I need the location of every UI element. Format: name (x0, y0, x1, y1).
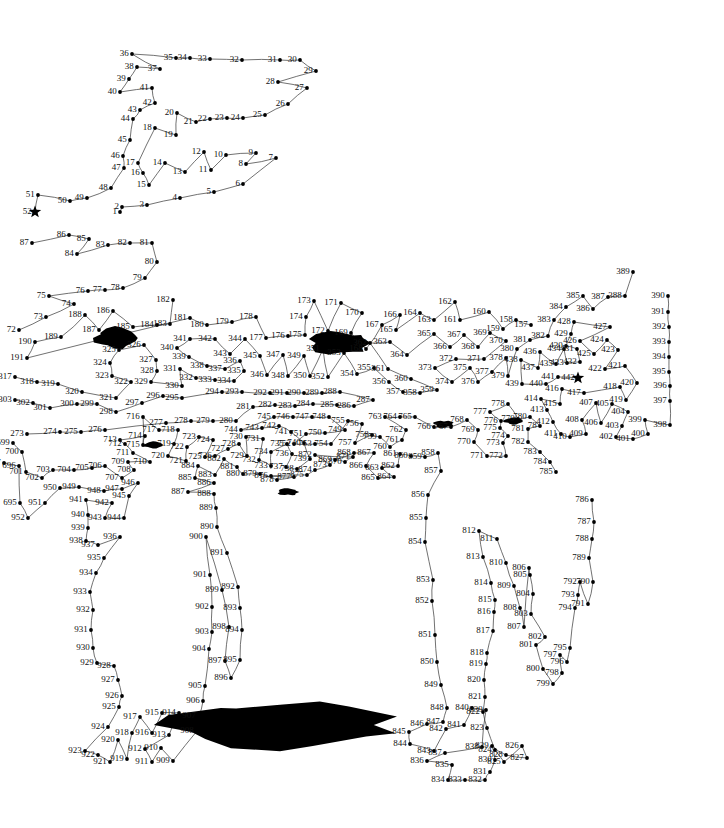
dot-174[interactable] (304, 315, 308, 319)
dot-784[interactable] (548, 460, 552, 464)
dot-385[interactable] (581, 294, 585, 298)
dot-46[interactable] (121, 154, 125, 158)
dot-371[interactable] (482, 357, 486, 361)
dot-286[interactable] (352, 404, 356, 408)
dot-347[interactable] (281, 353, 285, 357)
dot-754[interactable] (329, 442, 333, 446)
dot-804[interactable] (531, 592, 535, 596)
dot-33[interactable] (208, 57, 212, 61)
dot-793[interactable] (576, 593, 580, 597)
dot-365[interactable] (432, 332, 436, 336)
dot-354[interactable] (355, 372, 359, 376)
dot-874[interactable] (313, 468, 317, 472)
dot-17[interactable] (136, 161, 140, 165)
dot-273[interactable] (25, 432, 29, 436)
dot-22[interactable] (208, 117, 212, 121)
dot-436[interactable] (538, 350, 542, 354)
dot-161[interactable] (458, 318, 462, 322)
dot-427[interactable] (608, 325, 612, 329)
dot-770[interactable] (472, 440, 476, 444)
dot-8[interactable] (244, 162, 248, 166)
dot-339[interactable] (187, 355, 191, 359)
dot-162[interactable] (453, 300, 457, 304)
dot-282[interactable] (273, 403, 277, 407)
dot-823[interactable] (485, 726, 489, 730)
dot-187[interactable] (97, 328, 101, 332)
dot-342[interactable] (213, 337, 217, 341)
dot-320[interactable] (80, 390, 84, 394)
dot-926[interactable] (120, 694, 124, 698)
dot-415[interactable] (558, 402, 562, 406)
dot-778[interactable] (506, 402, 510, 406)
dot-74[interactable] (72, 302, 76, 306)
dot-341[interactable] (188, 337, 192, 341)
dot-391[interactable] (666, 310, 670, 314)
dot-832[interactable] (483, 778, 487, 782)
dot-796[interactable] (565, 660, 569, 664)
dot-920[interactable] (116, 738, 120, 742)
dot-276[interactable] (103, 428, 107, 432)
dot-772[interactable] (504, 454, 508, 458)
dot-945[interactable] (127, 494, 131, 498)
dot-889[interactable] (214, 506, 218, 510)
dot-372[interactable] (454, 357, 458, 361)
dot-805[interactable] (528, 573, 532, 577)
dot-380[interactable] (515, 347, 519, 351)
dot-868[interactable] (352, 451, 356, 455)
dot-716[interactable] (141, 415, 145, 419)
dot-406[interactable] (599, 421, 603, 425)
dot-11[interactable] (209, 168, 213, 172)
dot-952[interactable] (26, 516, 30, 520)
dot-761[interactable] (400, 438, 404, 442)
dot-170[interactable] (360, 311, 364, 315)
dot-416[interactable] (560, 387, 564, 391)
dot-820[interactable] (482, 678, 486, 682)
dot-191[interactable] (25, 356, 29, 360)
dot-787[interactable] (592, 520, 596, 524)
dot-80[interactable] (155, 260, 159, 264)
dot-911[interactable] (150, 760, 154, 764)
dot-939[interactable] (86, 526, 90, 530)
dot-178[interactable] (254, 315, 258, 319)
dot-906[interactable] (201, 699, 205, 703)
dot-927[interactable] (116, 678, 120, 682)
dot-386[interactable] (591, 307, 595, 311)
dot-890[interactable] (215, 525, 219, 529)
dot-946[interactable] (136, 481, 140, 485)
dot-909[interactable] (171, 759, 175, 763)
dot-825[interactable] (502, 760, 506, 764)
dot-186[interactable] (111, 309, 115, 313)
dot-399[interactable] (643, 418, 647, 422)
dot-384[interactable] (564, 305, 568, 309)
dot-426[interactable] (578, 339, 582, 343)
dot-756[interactable] (360, 422, 364, 426)
dot-849[interactable] (439, 683, 443, 687)
dot-908[interactable] (195, 729, 199, 733)
dot-417[interactable] (582, 391, 586, 395)
dot-4[interactable] (178, 196, 182, 200)
dot-791[interactable] (586, 602, 590, 606)
dot-851[interactable] (433, 633, 437, 637)
dot-806[interactable] (527, 566, 531, 570)
dot-853[interactable] (431, 578, 435, 582)
dot-43[interactable] (138, 108, 142, 112)
dot-298[interactable] (114, 410, 118, 414)
dot-918[interactable] (130, 731, 134, 735)
dot-769[interactable] (476, 428, 480, 432)
dot-274[interactable] (58, 430, 62, 434)
dot-441[interactable] (556, 375, 560, 379)
dot-180[interactable] (205, 323, 209, 327)
dot-905[interactable] (203, 684, 207, 688)
dot-807[interactable] (522, 625, 526, 629)
dot-412[interactable] (551, 420, 555, 424)
dot-72[interactable] (17, 328, 21, 332)
dot-422[interactable] (603, 367, 607, 371)
dot-362[interactable] (368, 341, 372, 345)
dot-287[interactable] (371, 398, 375, 402)
dot-420[interactable] (635, 381, 639, 385)
dot-330[interactable] (180, 384, 184, 388)
dot-280[interactable] (234, 419, 238, 423)
dot-767[interactable] (449, 425, 453, 429)
dot-40[interactable] (118, 90, 122, 94)
dot-177[interactable] (264, 336, 268, 340)
